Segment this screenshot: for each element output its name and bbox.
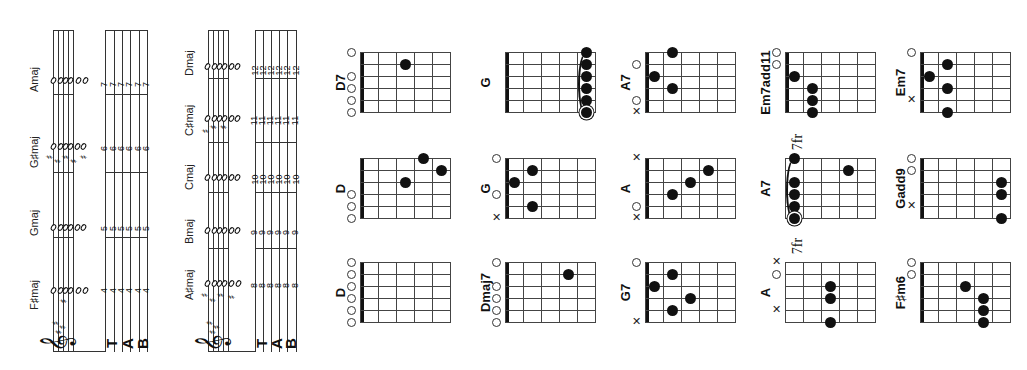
finger-dot: [581, 83, 592, 94]
tab-barline: [255, 248, 297, 249]
string-line: [645, 158, 735, 159]
fret-line: [450, 52, 451, 113]
string-line: [645, 218, 735, 219]
finger-dot: [789, 153, 800, 164]
chord-diagram-label: A: [618, 149, 633, 229]
open-string-icon: [347, 72, 356, 81]
fret-line: [432, 52, 433, 113]
open-string-icon: [347, 282, 356, 291]
fret-line: [505, 158, 506, 219]
open-string-icon: [347, 294, 356, 303]
sharp-icon: ♯: [227, 295, 237, 300]
string-line: [360, 322, 450, 323]
open-string-icon: [632, 96, 641, 105]
finger-dot: [789, 177, 800, 188]
fret-line: [938, 262, 939, 323]
fret-line: [505, 52, 506, 113]
chord-diagram: G7✕: [605, 252, 755, 347]
fret-line: [577, 262, 578, 323]
fret-line: [360, 52, 361, 113]
fret-line: [378, 158, 379, 219]
fret-line: [857, 52, 858, 113]
fret-line: [595, 262, 596, 323]
chord-name: Bmaj: [183, 219, 195, 244]
fretboard-grid: [360, 52, 450, 112]
fret-line: [938, 158, 939, 219]
string-line: [360, 88, 450, 89]
string-line: [645, 206, 735, 207]
fret-line: [735, 158, 736, 219]
muted-string-icon: ✕: [772, 304, 781, 315]
sharp-icon: ♯: [208, 298, 218, 303]
fret-line: [735, 262, 736, 323]
string-line: [920, 64, 1010, 65]
muted-string-icon: ✕: [907, 94, 916, 105]
fret-line: [920, 52, 921, 113]
tab-label-t: T: [254, 339, 269, 348]
string-line: [645, 274, 735, 275]
chord-name: Dmaj: [183, 50, 195, 76]
fret-line: [414, 262, 415, 323]
tab-number: 10: [292, 174, 301, 184]
string-line: [360, 100, 450, 101]
finger-dot: [924, 71, 935, 82]
fret-line: [699, 158, 700, 219]
notation-system-2: 𝄞 ♯ ♯ ♯ T A B A♯maj Bmaj Cmaj C♯maj Dmaj…: [0, 0, 320, 370]
string-line: [920, 100, 1010, 101]
finger-dot: [843, 165, 854, 176]
fret-line: [785, 52, 786, 113]
string-line: [360, 52, 450, 53]
fret-line: [974, 52, 975, 113]
string-line: [645, 322, 735, 323]
fret-line: [360, 158, 361, 219]
finger-dot: [789, 201, 800, 212]
tab-barline: [255, 30, 297, 31]
open-string-icon: [492, 282, 501, 291]
string-line: [360, 158, 450, 159]
finger-dot: [527, 201, 538, 212]
finger-dot: [942, 83, 953, 94]
chord-diagram: A✕✕7fr: [745, 252, 895, 347]
chord-diagram-label: A7: [758, 149, 773, 229]
fret-line: [523, 52, 524, 113]
chord-diagram-label: D: [333, 253, 348, 333]
fret-position-label: 7fr: [790, 238, 806, 254]
finger-dot: [667, 269, 678, 280]
tab-number: 12: [292, 65, 301, 75]
open-string-icon: [492, 318, 501, 327]
fret-line: [803, 158, 804, 219]
fret-line: [717, 52, 718, 113]
fretboard-grid: 7fr: [785, 158, 875, 218]
string-line: [645, 262, 735, 263]
barline: [208, 142, 229, 143]
chord-diagram: Em7add11: [745, 42, 895, 137]
treble-clef-icon: 𝄞: [197, 334, 227, 352]
open-string-icon: [347, 108, 356, 117]
open-string-icon: [347, 48, 356, 57]
fret-line: [992, 158, 993, 219]
fret-line: [645, 52, 646, 113]
note-head: [204, 114, 212, 123]
fret-line: [956, 52, 957, 113]
fret-line: [1010, 158, 1011, 219]
fret-line: [857, 262, 858, 323]
open-string-icon: [632, 202, 641, 211]
fret-line: [559, 262, 560, 323]
fret-line: [595, 158, 596, 219]
chord-diagram-label: Em7: [893, 43, 908, 123]
fret-line: [645, 262, 646, 323]
finger-dot: [942, 59, 953, 70]
fret-line: [559, 52, 560, 113]
finger-dot: [996, 189, 1007, 200]
fret-line: [717, 158, 718, 219]
string-line: [920, 206, 1010, 207]
finger-dot: [436, 165, 447, 176]
finger-dot: [807, 95, 818, 106]
fret-line: [920, 262, 921, 323]
open-string-icon: [347, 214, 356, 223]
string-line: [645, 170, 735, 171]
barline: [208, 30, 229, 31]
open-string-icon: [347, 190, 356, 199]
finger-dot: [685, 177, 696, 188]
string-line: [505, 310, 595, 311]
